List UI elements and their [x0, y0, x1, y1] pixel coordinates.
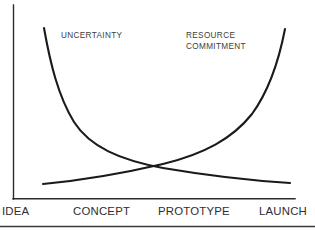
stage-label-launch: LAUNCH — [259, 205, 307, 217]
chart-canvas — [0, 0, 315, 232]
uncertainty-curve — [44, 28, 290, 183]
resource-commitment-label-line2: COMMITMENT — [186, 42, 246, 51]
uncertainty-label: UNCERTAINTY — [61, 31, 122, 42]
stage-label-prototype: PROTOTYPE — [158, 205, 230, 217]
resource-commitment-label: RESOURCECOMMITMENT — [186, 31, 246, 52]
resource-commitment-label-line1: RESOURCE — [186, 31, 235, 40]
stage-label-idea: IDEA — [2, 205, 29, 217]
stage-label-concept: CONCEPT — [73, 205, 130, 217]
lifecycle-uncertainty-chart: UNCERTAINTY RESOURCECOMMITMENT IDEA CONC… — [0, 0, 315, 232]
resource-commitment-curve — [43, 29, 285, 184]
